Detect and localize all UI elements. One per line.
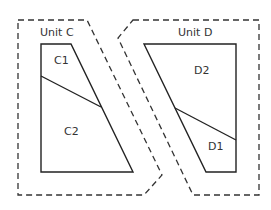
unit-d-group: Unit D D2 D1 [118, 20, 259, 195]
unit-c-divider [41, 76, 101, 107]
unit-d-divider [175, 108, 236, 140]
unit-d-boundary [118, 20, 259, 195]
unit-c-boundary [18, 20, 162, 195]
unit-d-label: Unit D [178, 26, 212, 39]
part-c1-label: C1 [54, 54, 69, 67]
part-c2-label: C2 [64, 125, 79, 138]
part-d2-label: D2 [194, 64, 209, 77]
part-d1-label: D1 [208, 140, 223, 153]
unit-diagram: Unit C C1 C2 Unit D D2 D1 [0, 0, 271, 210]
unit-c-label: Unit C [40, 26, 74, 39]
unit-c-group: Unit C C1 C2 [18, 20, 162, 195]
